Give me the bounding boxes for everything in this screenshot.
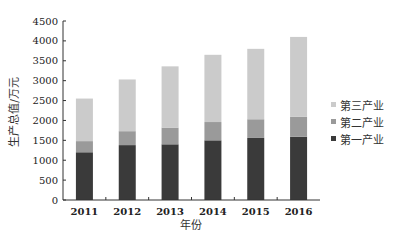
bar-segment bbox=[204, 122, 221, 140]
bar-segment bbox=[290, 137, 307, 200]
y-axis: 050010001500200025003000350040004500 bbox=[33, 16, 66, 206]
bar-segment bbox=[119, 145, 136, 200]
y-tick-label: 1500 bbox=[33, 135, 58, 146]
legend-label: 第三产业 bbox=[340, 97, 384, 113]
bar-segment bbox=[247, 119, 264, 138]
y-tick-label: 2000 bbox=[33, 115, 58, 126]
legend-item-primary: 第一产业 bbox=[331, 130, 384, 147]
bar-segment bbox=[76, 99, 93, 142]
bar-segment bbox=[204, 55, 221, 122]
legend-swatch bbox=[331, 136, 336, 141]
bar-segment bbox=[290, 37, 307, 117]
x-tick-label: 2011 bbox=[70, 206, 98, 217]
x-tick-label: 2014 bbox=[199, 206, 227, 217]
y-tick-label: 3500 bbox=[33, 55, 58, 66]
legend-item-secondary: 第二产业 bbox=[331, 113, 384, 130]
y-axis-label: 生产总值/万元 bbox=[7, 77, 21, 147]
bar-segment bbox=[119, 79, 136, 131]
x-axis: 201120122013201420152016 bbox=[63, 197, 320, 217]
legend-label: 第一产业 bbox=[340, 131, 384, 147]
y-tick-label: 4500 bbox=[33, 16, 58, 27]
bar-segment bbox=[247, 49, 264, 119]
legend-swatch bbox=[331, 102, 336, 107]
y-tick-label: 500 bbox=[39, 175, 58, 186]
bar-segment bbox=[119, 131, 136, 145]
legend-swatch bbox=[331, 119, 336, 124]
y-tick-label: 0 bbox=[52, 195, 58, 206]
x-tick-label: 2016 bbox=[285, 206, 313, 217]
y-tick-label: 3000 bbox=[33, 75, 58, 86]
bar-segment bbox=[204, 140, 221, 200]
y-tick-label: 1000 bbox=[33, 155, 58, 166]
y-tick-label: 4000 bbox=[33, 35, 58, 46]
x-tick-label: 2013 bbox=[156, 206, 184, 217]
y-tick-label: 2500 bbox=[33, 95, 58, 106]
legend-item-tertiary: 第三产业 bbox=[331, 96, 384, 113]
legend: 第三产业 第二产业 第一产业 bbox=[331, 96, 384, 147]
bars bbox=[76, 37, 307, 200]
bar-segment bbox=[162, 128, 179, 145]
bar-segment bbox=[290, 117, 307, 137]
bar-segment bbox=[76, 141, 93, 152]
bar-segment bbox=[162, 144, 179, 200]
x-axis-label: 年份 bbox=[180, 218, 202, 232]
legend-label: 第二产业 bbox=[340, 114, 384, 130]
bar-segment bbox=[162, 66, 179, 127]
bar-segment bbox=[76, 152, 93, 200]
bar-segment bbox=[247, 138, 264, 200]
x-tick-label: 2015 bbox=[242, 206, 270, 217]
x-tick-label: 2012 bbox=[113, 206, 141, 217]
